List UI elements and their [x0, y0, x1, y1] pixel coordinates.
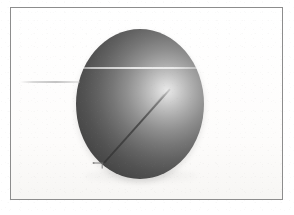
figure-root: Shaded sphere with chord and radius — [0, 0, 294, 215]
figure-border — [10, 7, 283, 200]
